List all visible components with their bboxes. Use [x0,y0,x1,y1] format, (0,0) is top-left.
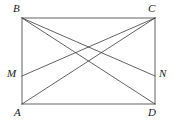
point-label-C: C [148,3,155,14]
point-label-A: A [14,107,21,118]
segment-layer [22,18,155,104]
point-label-N: N [159,68,166,79]
point-label-B: B [13,3,20,14]
point-label-M: M [7,68,16,79]
point-label-D: D [148,107,156,118]
geometry-canvas [0,0,172,122]
geometry-figure: B C A D M N [0,0,172,122]
